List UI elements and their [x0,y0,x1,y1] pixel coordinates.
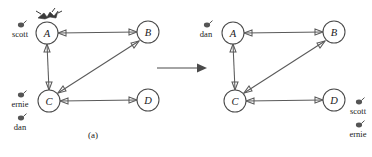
token-ernie-label: ernie [12,99,29,109]
node-a[interactable]: A [36,22,58,44]
token-icon-tail [362,98,365,101]
edge-c-to-b [58,41,139,93]
token-scott[interactable]: scott [12,21,29,39]
node-a-label: A [43,28,51,39]
token-dan[interactable]: dan [200,21,213,39]
token-icon [18,93,24,98]
token-scott[interactable]: scott [350,98,367,116]
token-icon-tail [210,21,213,24]
edge-a-to-b [244,29,323,36]
token-ernie[interactable]: ernie [350,121,367,139]
edges-group-b [230,29,325,104]
edge-c-to-b [244,41,325,93]
arrowhead-toward-b [131,41,139,48]
crown-icon [36,8,62,19]
node-b[interactable]: B [323,21,345,43]
caption-a: (a) [0,130,186,140]
edge-a-to-c [44,44,52,90]
arrowhead-toward-b [317,41,325,48]
arrowhead-toward-c [58,86,66,93]
token-icon-tail [24,91,27,94]
node-d-label: D [143,95,152,106]
token-ernie-label: ernie [350,129,367,139]
token-icon [204,23,210,28]
node-a[interactable]: A [222,22,244,44]
token-icon-tail [24,114,27,117]
token-icon-tail [362,121,365,124]
node-b-label: B [145,27,152,38]
token-icon-tail [24,21,27,24]
node-c-label: C [45,96,53,107]
node-b-label: B [331,27,338,38]
node-b[interactable]: B [137,21,159,43]
token-scott-label: scott [12,29,29,39]
edges-group-a [44,29,139,104]
token-scott-label: scott [350,106,367,116]
token-icon [356,123,362,128]
node-c[interactable]: C [224,90,246,112]
token-icon [18,116,24,121]
node-c[interactable]: C [38,90,60,112]
edge-a-to-b [58,29,137,36]
diagram-panel-b: A B C D dan scott [186,0,372,157]
token-ernie[interactable]: ernie [12,91,29,109]
edge-a-to-c [230,44,238,90]
figure-root: A B C D scott ernie [0,0,372,157]
node-d-label: D [329,95,338,106]
node-d[interactable]: D [323,89,345,111]
token-dan-label: dan [200,29,213,39]
token-icon [18,23,24,28]
graph-b: A B C D dan scott [186,0,372,157]
node-a-label: A [229,28,237,39]
node-c-label: C [231,96,239,107]
edge-c-to-d [60,97,137,104]
node-d[interactable]: D [137,89,159,111]
token-icon [356,100,362,105]
arrowhead-toward-c [244,86,252,93]
edge-c-to-d [246,97,323,104]
